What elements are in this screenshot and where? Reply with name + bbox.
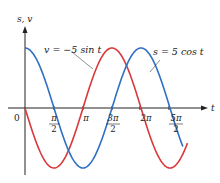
y-axis-label: s, v (17, 14, 32, 24)
chart: s, v t 0 v = −5 sin t s = 5 cos t π 2 π … (0, 0, 220, 183)
origin-label: 0 (14, 113, 20, 123)
x-axis-arrow-icon (201, 106, 208, 111)
tick-pi-half-den: 2 (51, 124, 56, 134)
annotation-s: s = 5 cos t (153, 46, 204, 57)
tick-pi: π (82, 113, 89, 123)
y-axis-arrow-icon (23, 26, 28, 33)
tick-3pi-half-den: 2 (110, 124, 115, 134)
tick-2pi: 2π (140, 113, 152, 123)
tick-3pi-half-num: 3π (108, 113, 119, 123)
tick-5pi-half-den: 2 (173, 124, 178, 134)
tick-5pi-half-num: 5π (171, 113, 182, 123)
tick-pi-half-num: π (50, 113, 57, 123)
x-axis-label: t (211, 103, 215, 113)
annotation-s-leader (150, 60, 160, 72)
annotation-v: v = −5 sin t (44, 44, 101, 55)
